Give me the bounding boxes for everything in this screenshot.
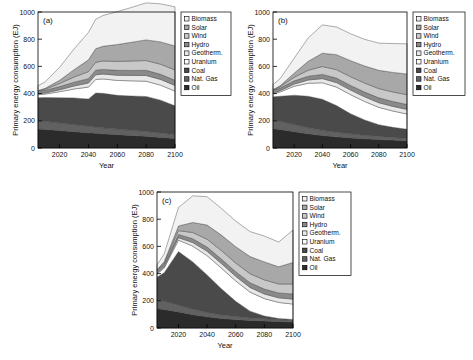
x-tick-label: 2040 — [81, 151, 97, 158]
y-tick-label: 400 — [258, 90, 270, 97]
legend-swatch-wind — [185, 34, 190, 39]
legend-label-oil: Oil — [424, 84, 433, 91]
y-tick-label: 800 — [258, 36, 270, 43]
chart-panel-c: 0200400600800100020202040206020802100Yea… — [117, 180, 362, 360]
panel-b-svg: 0200400600800100020202040206020802100Yea… — [233, 0, 473, 180]
x-axis-title: Year — [332, 161, 348, 170]
x-axis-title: Year — [99, 161, 115, 170]
legend-label-oil: Oil — [310, 264, 319, 271]
legend-label-uranium: Uranium — [310, 238, 335, 245]
legend-swatch-wind — [303, 214, 308, 219]
y-tick-label: 200 — [142, 297, 154, 304]
legend-label-biomass: Biomass — [310, 195, 336, 202]
x-tick-label: 2020 — [286, 151, 302, 158]
x-tick-label: 2060 — [228, 331, 244, 338]
x-tick-label: 2080 — [257, 331, 273, 338]
legend-label-coal: Coal — [310, 247, 324, 254]
legend-swatch-nat--gas — [185, 77, 190, 82]
legend-label-coal: Coal — [192, 67, 206, 74]
panel-letter: (a) — [43, 16, 53, 25]
x-tick-label: 2080 — [371, 151, 387, 158]
panel-letter: (c) — [162, 196, 172, 205]
legend-swatch-uranium — [303, 240, 308, 245]
legend-swatch-biomass — [185, 17, 190, 22]
y-tick-label: 0 — [31, 145, 35, 152]
x-tick-label: 2100 — [167, 151, 183, 158]
legend-swatch-solar — [303, 205, 308, 210]
legend-swatch-biomass — [303, 197, 308, 202]
legend-label-hydro: Hydro — [310, 221, 328, 229]
y-tick-label: 400 — [142, 270, 154, 277]
legend-label-solar: Solar — [424, 24, 440, 31]
legend-swatch-wind — [417, 34, 422, 39]
legend-swatch-biomass — [417, 17, 422, 22]
y-tick-label: 0 — [150, 325, 154, 332]
legend-label-uranium: Uranium — [192, 58, 217, 65]
legend-swatch-solar — [417, 25, 422, 30]
x-tick-label: 2060 — [110, 151, 126, 158]
legend-swatch-nat--gas — [303, 257, 308, 262]
legend-label-uranium: Uranium — [424, 58, 449, 65]
legend-swatch-coal — [303, 248, 308, 253]
y-tick-label: 200 — [258, 117, 270, 124]
legend-label-hydro: Hydro — [424, 41, 442, 49]
legend-label-oil: Oil — [192, 84, 201, 91]
panel-a-svg: 0200400600800100020202040206020802100Yea… — [0, 0, 233, 180]
y-tick-label: 600 — [258, 63, 270, 70]
legend-label-nat--gas: Nat. Gas — [424, 75, 451, 82]
legend-label-wind: Wind — [192, 32, 207, 39]
legend-swatch-hydro — [417, 42, 422, 47]
legend-label-geotherm-: Geotherm. — [310, 229, 341, 236]
legend-label-nat--gas: Nat. Gas — [310, 255, 337, 262]
panel-c-svg: 0200400600800100020202040206020802100Yea… — [117, 180, 362, 360]
y-tick-label: 0 — [266, 145, 270, 152]
x-tick-label: 2080 — [138, 151, 154, 158]
legend-label-geotherm-: Geotherm. — [192, 49, 223, 56]
y-axis-title: Primary energy consumption (EJ) — [130, 204, 139, 316]
x-tick-label: 2020 — [171, 331, 187, 338]
x-tick-label: 2040 — [315, 151, 331, 158]
y-tick-label: 1000 — [138, 189, 154, 196]
chart-panel-b: 0200400600800100020202040206020802100Yea… — [233, 0, 473, 180]
x-tick-label: 2100 — [285, 331, 301, 338]
y-tick-label: 200 — [23, 117, 35, 124]
legend-swatch-geotherm- — [185, 51, 190, 56]
legend-label-hydro: Hydro — [192, 41, 210, 49]
y-tick-label: 600 — [23, 63, 35, 70]
legend-swatch-oil — [303, 265, 308, 270]
x-tick-label: 2100 — [399, 151, 415, 158]
legend-swatch-hydro — [185, 42, 190, 47]
y-axis-title: Primary energy consumption (EJ) — [11, 24, 20, 136]
legend-swatch-geotherm- — [303, 231, 308, 236]
legend-swatch-geotherm- — [417, 51, 422, 56]
y-tick-label: 1000 — [254, 9, 270, 16]
y-tick-label: 1000 — [19, 9, 35, 16]
legend-label-solar: Solar — [310, 204, 326, 211]
legend-swatch-oil — [417, 85, 422, 90]
legend-label-solar: Solar — [192, 24, 208, 31]
legend-label-wind: Wind — [310, 212, 325, 219]
y-axis-title: Primary energy consumption (EJ) — [246, 24, 255, 136]
legend-swatch-coal — [185, 68, 190, 73]
y-tick-label: 800 — [142, 216, 154, 223]
legend-label-biomass: Biomass — [424, 15, 450, 22]
legend-swatch-uranium — [185, 60, 190, 65]
y-tick-label: 800 — [23, 36, 35, 43]
legend-label-coal: Coal — [424, 67, 438, 74]
x-tick-label: 2060 — [343, 151, 359, 158]
x-tick-label: 2040 — [199, 331, 215, 338]
x-axis-title: Year — [217, 341, 233, 350]
chart-panel-a: 0200400600800100020202040206020802100Yea… — [0, 0, 233, 180]
y-tick-label: 400 — [23, 90, 35, 97]
legend-swatch-coal — [417, 68, 422, 73]
x-tick-label: 2020 — [52, 151, 68, 158]
legend-swatch-uranium — [417, 60, 422, 65]
legend-label-geotherm-: Geotherm. — [424, 49, 455, 56]
legend-label-biomass: Biomass — [192, 15, 218, 22]
legend-swatch-nat--gas — [417, 77, 422, 82]
legend-swatch-oil — [185, 85, 190, 90]
y-tick-label: 600 — [142, 243, 154, 250]
legend-label-nat--gas: Nat. Gas — [192, 75, 219, 82]
panel-letter: (b) — [278, 16, 288, 25]
legend-label-wind: Wind — [424, 32, 439, 39]
